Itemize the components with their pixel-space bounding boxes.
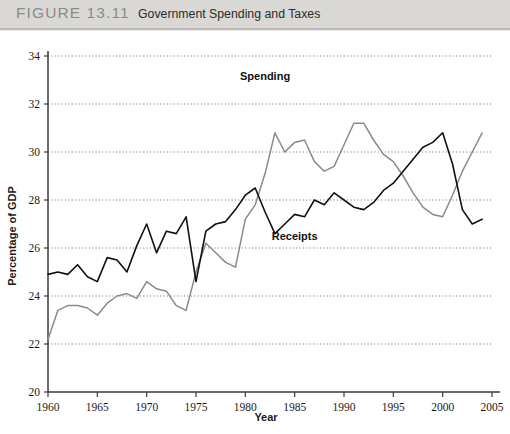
x-tick-label-1975: 1975	[185, 401, 208, 413]
y-tick-label-24: 24	[29, 290, 41, 302]
x-tick-label-1965: 1965	[86, 401, 109, 413]
figure-container: FIGURE 13.11 Government Spending and Tax…	[0, 0, 510, 434]
line-chart: 2022242628303234 19601965197019751980198…	[0, 31, 510, 434]
y-tick-label-22: 22	[29, 338, 41, 350]
y-tick-label-28: 28	[29, 194, 41, 206]
y-tick-label-26: 26	[29, 242, 41, 254]
gridlines-group	[48, 56, 492, 344]
series-line-receipts	[48, 133, 482, 282]
x-tick-label-2005: 2005	[481, 401, 504, 413]
y-axis-title: Percentage of GDP	[6, 186, 18, 286]
x-tick-label-1985: 1985	[283, 401, 306, 413]
data-series-group	[48, 123, 482, 339]
x-tick-label-1970: 1970	[135, 401, 158, 413]
x-tick-label-2000: 2000	[431, 401, 454, 413]
y-tick-label-34: 34	[29, 50, 41, 62]
x-tick-label-1995: 1995	[382, 401, 405, 413]
x-axis-title: Year	[254, 411, 278, 423]
series-label-spending: Spending	[240, 70, 290, 82]
x-tick-label-1990: 1990	[333, 401, 356, 413]
y-tick-labels: 2022242628303234	[29, 50, 41, 398]
y-tick-label-32: 32	[29, 98, 41, 110]
chart-plot-area: 2022242628303234 19601965197019751980198…	[0, 31, 510, 434]
series-label-receipts: Receipts	[272, 230, 318, 242]
figure-title: Government Spending and Taxes	[138, 7, 320, 21]
figure-number: FIGURE 13.11	[16, 4, 130, 22]
y-tick-label-30: 30	[29, 146, 41, 158]
y-tick-label-20: 20	[29, 386, 41, 398]
x-tick-label-1960: 1960	[37, 401, 60, 413]
tickmarks-group	[44, 56, 492, 397]
